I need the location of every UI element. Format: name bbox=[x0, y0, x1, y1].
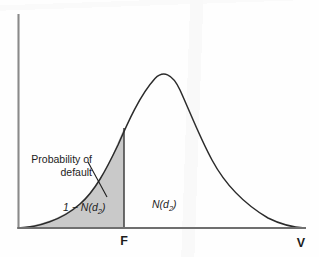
x-axis-label-v: V bbox=[297, 236, 306, 250]
shaded-region-label-prefix: 1 − N(d bbox=[63, 201, 99, 213]
distribution-chart-svg: Probability of default 1 − N(d2) N(d2) F… bbox=[0, 0, 319, 257]
callout-label-line2: default bbox=[60, 166, 92, 178]
unshaded-region-label-prefix: N(d bbox=[152, 198, 170, 210]
unshaded-region-label: N(d2) bbox=[152, 198, 177, 213]
callout-label-line1: Probability of bbox=[31, 153, 92, 165]
probability-of-default-figure: Probability of default 1 − N(d2) N(d2) F… bbox=[0, 0, 319, 257]
threshold-axis-label-f: F bbox=[120, 234, 128, 248]
default-probability-shaded-region bbox=[18, 128, 124, 228]
